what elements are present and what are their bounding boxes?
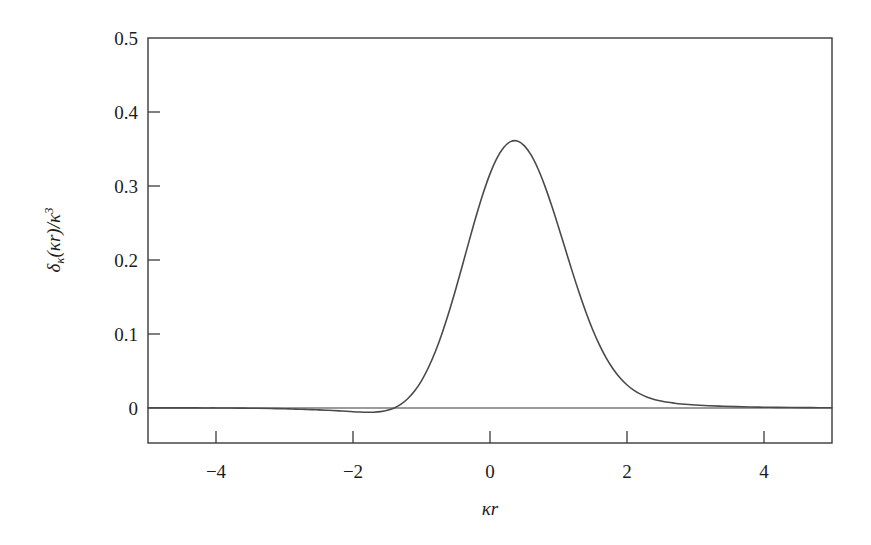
y-axis-title-exponent: 3 <box>41 207 56 215</box>
y-tick-label-0.2: 0.2 <box>114 250 138 271</box>
y-axis-title-arg: κr <box>43 234 64 251</box>
y-tick-label-0.1: 0.1 <box>114 324 138 345</box>
y-axis-title: δκ(κr)/κ3 <box>41 207 67 273</box>
x-tick-label-2: 2 <box>622 461 632 482</box>
y-tick-labels: 0.5 0.4 0.3 0.2 0.1 0 <box>114 28 138 419</box>
x-tick-label-4: 4 <box>759 461 769 482</box>
y-tick-marks <box>148 112 160 334</box>
x-tick-labels: −4 −2 0 2 4 <box>206 461 769 482</box>
x-tick-marks <box>216 431 764 443</box>
x-tick-label-0: 0 <box>485 461 495 482</box>
plot-frame <box>148 38 832 443</box>
x-tick-label--2: −2 <box>343 461 363 482</box>
svg-text:κr: κr <box>482 498 499 519</box>
y-tick-label-0: 0 <box>129 398 139 419</box>
y-tick-label-0.5: 0.5 <box>114 28 138 49</box>
svg-text:δκ(κr)/κ3: δκ(κr)/κ3 <box>41 207 67 273</box>
data-curve <box>148 141 832 413</box>
y-tick-label-0.4: 0.4 <box>114 102 138 123</box>
x-axis-title-r: r <box>491 498 499 519</box>
y-tick-label-0.3: 0.3 <box>114 176 138 197</box>
x-axis-title: κr <box>482 498 499 519</box>
figure-container: 0.5 0.4 0.3 0.2 0.1 0 −4 −2 0 2 4 κr δκ(… <box>0 0 871 545</box>
x-tick-label--4: −4 <box>206 461 227 482</box>
y-axis-title-close-paren: ) <box>43 228 65 235</box>
plot-canvas: 0.5 0.4 0.3 0.2 0.1 0 −4 −2 0 2 4 κr δκ(… <box>0 0 871 545</box>
